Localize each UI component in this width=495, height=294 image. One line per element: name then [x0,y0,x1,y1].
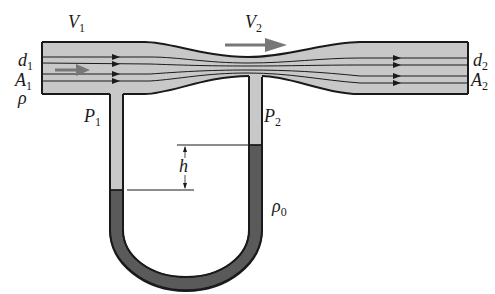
right-leg-fluid [249,76,262,145]
left-leg-fluid [110,94,123,190]
label-rho0: ρ0 [271,196,287,219]
label-v2: V2 [245,12,262,35]
label-p2: P2 [263,106,281,129]
label-a2: A2 [470,70,488,93]
venturi-diagram: V1 V2 d1 A1 ρ P1 P2 d2 A2 h ρ0 [0,0,495,294]
label-h: h [179,156,188,176]
velocity-arrow-icon [225,38,287,52]
label-rho: ρ [17,88,27,108]
label-v1: V1 [68,12,85,35]
label-p1: P1 [83,106,101,129]
